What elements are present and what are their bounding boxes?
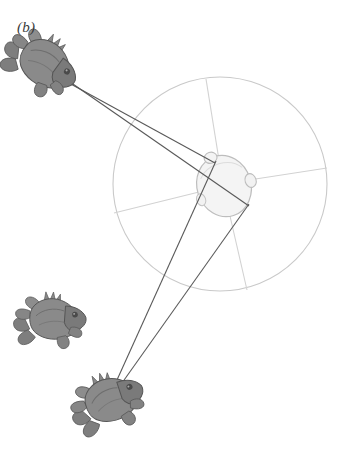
frog-upper-left [0, 17, 89, 107]
receiver-head [184, 141, 265, 225]
frog-bottom [59, 358, 155, 448]
sight-line-upper-a [57, 73, 249, 206]
figure-panel: (b) [0, 0, 353, 450]
spoke-right [249, 168, 327, 180]
frog-lower-left [11, 288, 89, 354]
spoke-left [114, 192, 199, 213]
sight-lines [57, 73, 249, 391]
diagram-canvas [0, 0, 353, 450]
sight-line-upper-b [58, 77, 215, 163]
spoke-up [206, 79, 219, 160]
sight-line-bottom-b [117, 204, 249, 390]
sight-line-bottom-a [112, 161, 216, 391]
panel-label: (b) [17, 19, 35, 36]
